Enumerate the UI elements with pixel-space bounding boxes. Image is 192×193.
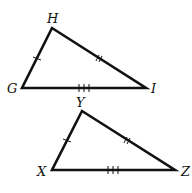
triangle-xyz-outline: [52, 111, 175, 170]
congruent-triangles-diagram: H G I Y X Z: [0, 0, 192, 193]
vertex-label-h: H: [46, 11, 59, 26]
triangle-ghi-outline: [22, 28, 146, 88]
vertex-label-g: G: [7, 81, 17, 96]
vertex-label-x: X: [36, 164, 47, 179]
triangle-xyz: Y X Z: [36, 95, 191, 179]
vertex-label-z: Z: [180, 164, 191, 179]
vertex-label-i: I: [150, 81, 157, 96]
triangle-ghi: H G I: [7, 11, 157, 96]
vertex-label-y: Y: [76, 95, 86, 110]
